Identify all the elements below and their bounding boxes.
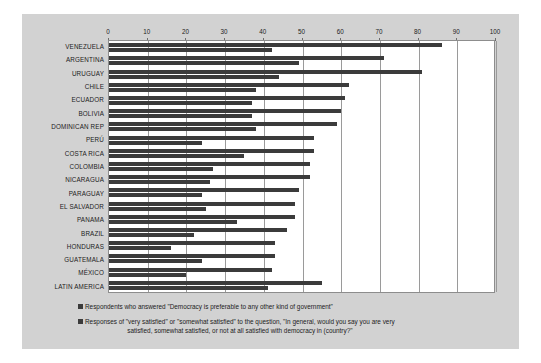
y-axis-category-label: COLOMBIA xyxy=(22,160,108,173)
bar xyxy=(109,70,422,74)
legend-entry-label: Respondents who answered "Democracy is p… xyxy=(85,302,333,311)
x-axis-tick-label: 60 xyxy=(337,28,344,35)
bar-series-group xyxy=(109,41,494,292)
y-axis-category-label: PERÚ xyxy=(22,133,108,146)
chart-plot-container: 0102030405060708090100 VENEZUELAARGENTIN… xyxy=(22,14,519,299)
bar xyxy=(109,193,202,197)
y-axis-category-label: COSTA RICA xyxy=(22,147,108,160)
y-axis-category-label: ARGENTINA xyxy=(22,53,108,66)
bar-row xyxy=(109,186,494,199)
y-axis-category-label: EL SALVADOR xyxy=(22,200,108,213)
bar xyxy=(109,207,206,211)
x-axis: 0102030405060708090100 xyxy=(108,28,495,40)
bar-row xyxy=(109,199,494,212)
bar xyxy=(109,268,272,272)
bar-row xyxy=(109,279,494,292)
x-axis-tick-label: 50 xyxy=(298,28,305,35)
y-axis-category-label: GUATEMALA xyxy=(22,253,108,266)
y-axis-category-label: HONDURAS xyxy=(22,240,108,253)
bar xyxy=(109,83,349,87)
bar xyxy=(109,109,341,113)
y-axis-category-label: NICARAGUA xyxy=(22,173,108,186)
bar-row xyxy=(109,226,494,239)
bar-row xyxy=(109,54,494,67)
bar xyxy=(109,61,299,65)
y-axis-category-label: CHILE xyxy=(22,80,108,93)
bar-row xyxy=(109,213,494,226)
y-axis-category-label: LATIN AMERICA xyxy=(22,280,108,293)
bar xyxy=(109,286,268,290)
gridline xyxy=(496,41,497,292)
bar xyxy=(109,114,252,118)
x-axis-tick-label: 80 xyxy=(414,28,421,35)
y-axis-category-label: BOLIVIA xyxy=(22,107,108,120)
x-axis-tick-label: 40 xyxy=(259,28,266,35)
y-axis-category-label: PANAMA xyxy=(22,213,108,226)
bar xyxy=(109,254,275,258)
bar xyxy=(109,180,210,184)
bar xyxy=(109,48,272,52)
bar xyxy=(109,220,237,224)
bar xyxy=(109,141,202,145)
x-axis-tick-label: 10 xyxy=(143,28,150,35)
bar xyxy=(109,127,256,131)
bar-row xyxy=(109,252,494,265)
legend-swatch-icon xyxy=(78,319,83,324)
bar xyxy=(109,281,322,285)
bar-row xyxy=(109,173,494,186)
bar-row xyxy=(109,147,494,160)
legend-swatch-icon xyxy=(78,304,83,309)
bar-row xyxy=(109,120,494,133)
bar-row xyxy=(109,81,494,94)
y-axis-category-labels: VENEZUELAARGENTINAURUGUAYCHILEECUADORBOL… xyxy=(22,40,108,293)
y-axis-category-label: VENEZUELA xyxy=(22,40,108,53)
x-axis-tick-label: 0 xyxy=(106,28,110,35)
x-axis-tick-label: 70 xyxy=(375,28,382,35)
chart-legend: Respondents who answered "Democracy is p… xyxy=(22,302,519,348)
bar-row xyxy=(109,133,494,146)
bar xyxy=(109,202,295,206)
bar-row xyxy=(109,265,494,278)
bar xyxy=(109,43,442,47)
bar xyxy=(109,273,186,277)
bar xyxy=(109,167,213,171)
bar xyxy=(109,162,310,166)
bar-row xyxy=(109,94,494,107)
bar xyxy=(109,136,314,140)
legend-entry-label: Responses of "very satisfied" or "somewh… xyxy=(85,317,395,335)
bar-row xyxy=(109,107,494,120)
bar xyxy=(109,259,202,263)
bar xyxy=(109,149,314,153)
bar xyxy=(109,215,295,219)
bar-row xyxy=(109,41,494,54)
bar xyxy=(109,188,299,192)
y-axis-category-label: PARAGUAY xyxy=(22,186,108,199)
bar xyxy=(109,75,279,79)
x-axis-tick-label: 100 xyxy=(490,28,501,35)
y-axis-category-label: MÉXICO xyxy=(22,266,108,279)
legend-entry-democracy-preferable: Respondents who answered "Democracy is p… xyxy=(78,302,333,311)
bar xyxy=(109,96,345,100)
x-axis-tick-label: 30 xyxy=(221,28,228,35)
legend-entry-satisfaction: Responses of "very satisfied" or "somewh… xyxy=(78,317,478,335)
bar xyxy=(109,241,275,245)
y-axis-category-label: URUGUAY xyxy=(22,67,108,80)
plot-area xyxy=(108,40,495,293)
bar xyxy=(109,175,310,179)
bar xyxy=(109,88,256,92)
bar xyxy=(109,101,252,105)
bar-row xyxy=(109,160,494,173)
bar-row xyxy=(109,67,494,80)
bar xyxy=(109,122,337,126)
bar xyxy=(109,246,171,250)
x-axis-tick-label: 20 xyxy=(182,28,189,35)
y-axis-category-label: ECUADOR xyxy=(22,93,108,106)
bar xyxy=(109,154,244,158)
bar-row xyxy=(109,239,494,252)
bar xyxy=(109,228,287,232)
chart-figure: 0102030405060708090100 VENEZUELAARGENTIN… xyxy=(22,14,519,349)
bar xyxy=(109,233,194,237)
y-axis-category-label: DOMINICAN REP xyxy=(22,120,108,133)
y-axis-category-label: BRAZIL xyxy=(22,226,108,239)
x-axis-tick-label: 90 xyxy=(453,28,460,35)
